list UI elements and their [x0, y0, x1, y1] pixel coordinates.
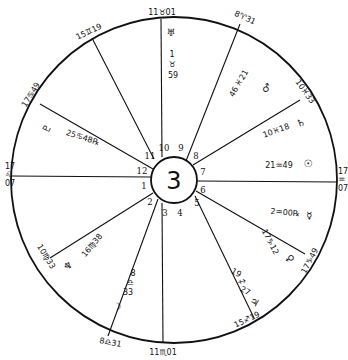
svg-text:33: 33 [123, 288, 133, 297]
cusp-11-label: 15♊19 [75, 22, 104, 42]
svg-text:7: 7 [200, 167, 205, 177]
svg-text:3: 3 [162, 208, 167, 218]
cusp-7-label-bottom: 07 [338, 184, 348, 193]
svg-text:1: 1 [169, 50, 174, 59]
sun-icon: ☉ [304, 158, 313, 169]
cusp-4-label: 11♏01 [149, 348, 177, 357]
mars-icon: ♂ [260, 81, 273, 95]
svg-text:2: 2 [147, 197, 152, 207]
cusp-10-label: 11♉01 [148, 8, 176, 17]
natal-chart-wheel: 3 1 2 3 4 5 6 7 8 9 10 11 12 11♉01 15♊19… [0, 0, 348, 360]
uranus-icon: ♅ [167, 27, 176, 38]
svg-text:5: 5 [194, 198, 199, 208]
svg-text:10: 10 [159, 143, 170, 153]
svg-text:59: 59 [168, 71, 178, 80]
svg-text:9: 9 [178, 143, 183, 153]
venus-icon: ♀ [284, 253, 297, 265]
svg-text:8: 8 [193, 151, 198, 161]
svg-text:12: 12 [137, 166, 148, 176]
svg-text:8: 8 [130, 269, 135, 278]
cusp-3-label: 8♎31 [99, 336, 123, 349]
svg-text:♎: ♎ [126, 278, 133, 287]
svg-text:♉: ♉ [168, 60, 175, 69]
svg-text:2♒00℞: 2♒00℞ [270, 207, 300, 219]
svg-text:21♒49: 21♒49 [265, 161, 293, 170]
svg-text:1: 1 [141, 181, 146, 191]
svg-text:17♑12: 17♑12 [260, 228, 281, 257]
svg-text:11: 11 [145, 151, 156, 161]
svg-text:6: 6 [200, 185, 205, 195]
center-label: 3 [166, 167, 181, 195]
svg-text:4: 4 [177, 208, 182, 218]
neptune-icon: ♆ [61, 259, 75, 273]
cusp-2-label: 10♍33 [35, 243, 57, 271]
cusp-12-label: 17♋49 [20, 81, 42, 109]
cusp-8-label: 8♈31 [233, 9, 257, 27]
cusp-1-label-bottom: 07 [5, 179, 15, 188]
svg-text:25♋48℞: 25♋48℞ [65, 128, 101, 147]
pluto-icon: ♇ [40, 122, 54, 135]
jupiter-icon: ♃ [248, 295, 261, 309]
svg-text:10♓18: 10♓18 [262, 122, 291, 140]
mercury-icon: ☿ [306, 210, 312, 221]
saturn-icon: ♄ [295, 116, 307, 129]
cusp-1-label-sign: ♌ [5, 170, 12, 179]
svg-text:16♍38: 16♍38 [80, 232, 105, 259]
moon-icon: ☽ [113, 301, 122, 312]
cusp-7-label-sign: ♒ [338, 175, 345, 184]
